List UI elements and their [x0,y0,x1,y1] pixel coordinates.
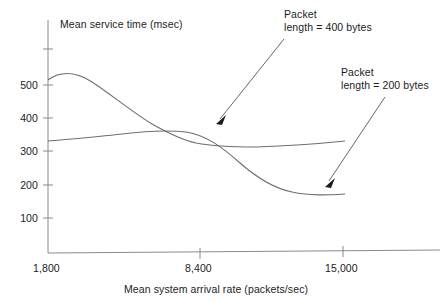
y-tick-label-300: 300 [8,145,38,157]
annotation-200-line1: Packet [341,66,429,79]
annotation-200-line2: length = 200 bytes [341,79,429,92]
y-tick-label-200: 200 [8,179,38,191]
annotation-400-line1: Packet [284,8,372,21]
y-tick-label-400: 400 [8,112,38,124]
chart-figure: Mean service time (msec) 500 400 300 200… [0,0,447,301]
y-axis-title: Mean service time (msec) [60,18,183,30]
x-axis-line [48,250,440,253]
annotation-leader-200 [329,97,385,181]
x-axis-title: Mean system arrival rate (packets/sec) [124,283,308,295]
x-tick-label-8400: 8,400 [185,262,212,274]
series-line-packet-400 [48,73,345,147]
chart-plot-area [0,0,447,301]
series-line-packet-200 [48,131,345,195]
x-tick-label-1800: 1,800 [33,262,60,274]
annotation-400-line2: length = 400 bytes [284,21,372,34]
annotation-leader-400 [220,39,284,119]
x-tick-label-15000: 15,000 [325,262,358,274]
y-tick-label-500: 500 [8,79,38,91]
annotation-label-packet-200: Packet length = 200 bytes [341,66,429,91]
y-tick-label-100: 100 [8,212,38,224]
annotation-label-packet-400: Packet length = 400 bytes [284,8,372,33]
annotation-arrowhead-400 [216,115,226,125]
